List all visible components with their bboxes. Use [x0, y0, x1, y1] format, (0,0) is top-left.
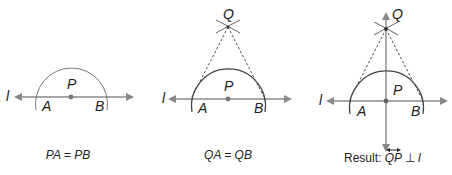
label-p: P	[224, 78, 234, 94]
panel-step1: l A P B PA = PB	[6, 68, 132, 162]
label-q: Q	[392, 6, 403, 22]
label-l: l	[162, 90, 166, 106]
label-q: Q	[223, 6, 234, 22]
segment-qa	[349, 29, 386, 101]
caption-segment: QP	[385, 151, 402, 165]
point-q	[384, 27, 388, 31]
label-a: A	[41, 98, 51, 114]
point-p	[384, 99, 389, 104]
label-a: A	[356, 103, 366, 119]
label-p: P	[393, 82, 403, 98]
point-p	[69, 95, 74, 100]
point-p	[226, 97, 231, 102]
caption-step3: Result: QP⊥l	[344, 151, 421, 165]
perpendicular-construction-diagram: l A P B PA = PB l A P B Q QA = QB	[0, 0, 452, 175]
panel-step3: l A P B Q Result: QP⊥l	[319, 6, 446, 165]
segment-qa	[191, 27, 228, 99]
segment-qb	[386, 29, 423, 101]
label-b: B	[411, 103, 420, 119]
label-l: l	[6, 88, 10, 104]
label-b: B	[95, 98, 104, 114]
caption-prefix: Result:	[344, 151, 385, 165]
point-q	[227, 26, 230, 29]
label-p: P	[67, 76, 77, 92]
caption-line: l	[418, 151, 421, 165]
label-l: l	[319, 92, 323, 108]
label-a: A	[197, 100, 207, 116]
label-b: B	[254, 100, 263, 116]
caption-step1: PA = PB	[46, 148, 90, 162]
caption-step2: QA = QB	[204, 148, 252, 162]
panel-step2: l A P B Q QA = QB	[162, 6, 290, 162]
segment-qb	[228, 27, 265, 99]
caption-perp: ⊥	[405, 151, 415, 165]
